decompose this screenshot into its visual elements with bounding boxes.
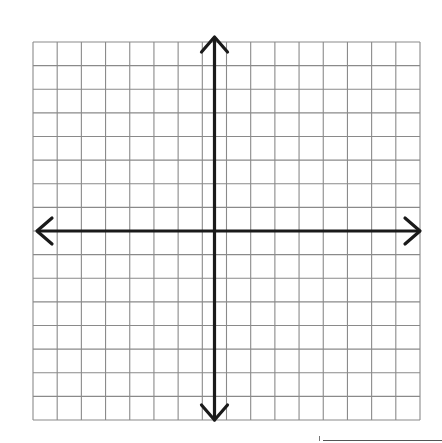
- axes: [37, 37, 420, 420]
- edge-mark: [319, 436, 320, 441]
- coordinate-plane: [0, 0, 442, 443]
